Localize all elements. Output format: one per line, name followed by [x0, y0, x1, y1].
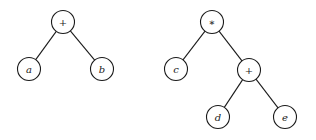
edge-+-to-b	[70, 31, 94, 60]
operand-node-t1_a: a	[18, 58, 41, 81]
node-label: +	[245, 65, 253, 76]
node-label: e	[282, 112, 288, 123]
expression-tree-diagram: +ab∗c+de	[0, 0, 316, 140]
tree-nodes: +ab∗c+de	[18, 11, 297, 129]
node-label: a	[26, 64, 32, 75]
node-label: ∗	[209, 17, 216, 28]
operator-node-t1_plus: +	[52, 11, 75, 34]
edge-+-to-a	[36, 31, 57, 59]
node-label: c	[173, 64, 179, 75]
node-label: b	[99, 64, 105, 75]
node-label: +	[59, 17, 67, 28]
edge-∗-to-c	[183, 31, 205, 60]
operand-node-t2_c: c	[165, 58, 188, 81]
node-label: d	[215, 112, 221, 123]
edge-+-to-e	[256, 79, 278, 108]
edge-+-to-d	[224, 80, 242, 108]
edge-∗-to-+	[219, 31, 242, 61]
operand-node-t2_d: d	[207, 106, 230, 129]
operand-node-t2_e: e	[274, 106, 297, 129]
operand-node-t1_b: b	[91, 58, 114, 81]
operator-node-t2_plus: +	[238, 59, 261, 82]
operator-node-t2_times: ∗	[201, 11, 224, 34]
